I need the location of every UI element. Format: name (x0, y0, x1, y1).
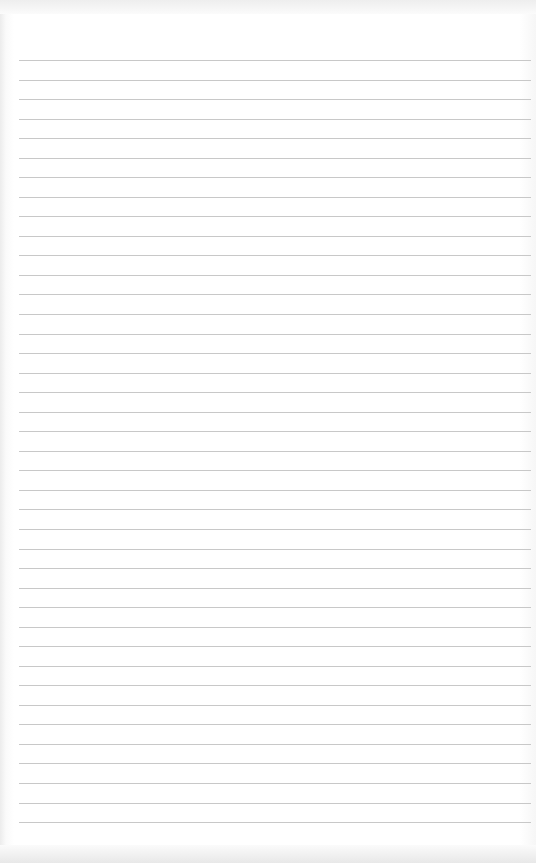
paper-top-edge (0, 0, 536, 14)
ruled-line (19, 177, 531, 178)
ruled-line (19, 431, 531, 432)
ruled-line (19, 275, 531, 276)
ruled-line (19, 119, 531, 120)
ruled-line (19, 607, 531, 608)
ruled-line (19, 236, 531, 237)
ruled-line (19, 392, 531, 393)
ruled-line (19, 549, 531, 550)
ruled-line (19, 412, 531, 413)
ruled-line (19, 568, 531, 569)
ruled-line (19, 822, 531, 823)
ruled-line (19, 509, 531, 510)
ruled-line (19, 529, 531, 530)
ruled-line (19, 314, 531, 315)
ruled-line (19, 744, 531, 745)
ruled-line (19, 353, 531, 354)
ruled-line (19, 334, 531, 335)
ruled-line (19, 490, 531, 491)
ruled-line (19, 685, 531, 686)
ruled-line (19, 470, 531, 471)
lined-paper-sheet (0, 0, 536, 863)
ruled-line (19, 99, 531, 100)
ruled-line (19, 803, 531, 804)
ruled-line (19, 646, 531, 647)
ruled-line (19, 373, 531, 374)
ruled-line (19, 588, 531, 589)
ruled-line (19, 158, 531, 159)
ruled-line (19, 627, 531, 628)
ruled-line (19, 724, 531, 725)
ruled-line (19, 197, 531, 198)
ruled-line (19, 255, 531, 256)
ruled-line (19, 666, 531, 667)
paper-bottom-edge (0, 845, 536, 863)
ruled-line (19, 451, 531, 452)
ruled-line (19, 216, 531, 217)
ruled-line (19, 783, 531, 784)
ruled-line (19, 763, 531, 764)
ruled-line (19, 80, 531, 81)
ruled-line (19, 138, 531, 139)
ruled-line (19, 705, 531, 706)
ruled-line (19, 60, 531, 61)
ruled-line (19, 294, 531, 295)
